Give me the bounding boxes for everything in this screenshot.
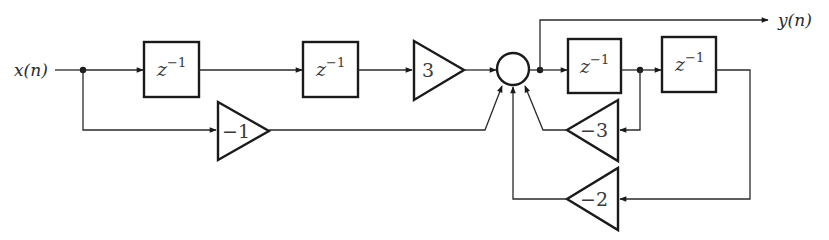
summing-node [497,53,529,85]
gain-neg2-label: −2 [580,188,608,210]
wire-to-gain-neg3 [620,70,640,130]
gain-neg1-label: −1 [222,120,250,142]
wire-gain-neg2-to-summer [513,87,567,199]
wire-gain-neg3-to-summer [525,86,567,130]
gain-3-label: 3 [422,59,434,81]
block-diagram: x(n) z−1 z−1 3 −1 y(n) z−1 z−1 −3 −2 [0,0,829,240]
output-label: y(n) [777,10,812,30]
gain-neg3-label: −3 [580,119,608,141]
input-label: x(n) [14,60,48,80]
